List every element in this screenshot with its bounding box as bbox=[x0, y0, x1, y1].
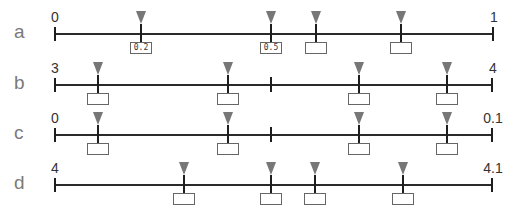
down-arrow-icon bbox=[311, 11, 321, 24]
answer-box[interactable] bbox=[436, 93, 458, 105]
row-label: b bbox=[14, 72, 25, 94]
answer-box[interactable] bbox=[348, 143, 370, 155]
marker-tick bbox=[183, 175, 185, 193]
marker-tick bbox=[446, 75, 448, 93]
midpoint-tick bbox=[270, 127, 272, 142]
down-arrow-icon bbox=[442, 112, 452, 125]
answer-box[interactable]: 0.5 bbox=[260, 42, 282, 54]
answer-box[interactable] bbox=[217, 143, 239, 155]
answer-box[interactable] bbox=[87, 143, 109, 155]
down-arrow-icon bbox=[354, 62, 364, 75]
number-line-axis bbox=[55, 184, 492, 186]
row-label: d bbox=[14, 172, 25, 194]
answer-box[interactable] bbox=[390, 42, 412, 54]
down-arrow-icon bbox=[396, 11, 406, 24]
marker-tick bbox=[227, 75, 229, 93]
number-line-axis bbox=[55, 84, 492, 86]
marker-tick bbox=[402, 175, 404, 193]
answer-box[interactable] bbox=[260, 193, 282, 205]
end-tick bbox=[492, 27, 494, 41]
down-arrow-icon bbox=[442, 62, 452, 75]
answer-box[interactable] bbox=[87, 93, 109, 105]
down-arrow-icon bbox=[266, 11, 276, 24]
marker-tick bbox=[270, 175, 272, 193]
marker-tick bbox=[400, 24, 402, 42]
end-value-label: 4.1 bbox=[483, 160, 502, 176]
marker-tick bbox=[358, 125, 360, 143]
marker-tick bbox=[358, 75, 360, 93]
answer-box[interactable] bbox=[348, 93, 370, 105]
start-tick bbox=[54, 128, 56, 142]
down-arrow-icon bbox=[223, 112, 233, 125]
marker-tick bbox=[97, 125, 99, 143]
end-tick bbox=[491, 178, 493, 192]
marker-tick bbox=[315, 24, 317, 42]
answer-box[interactable] bbox=[304, 193, 326, 205]
down-arrow-icon bbox=[266, 162, 276, 175]
down-arrow-icon bbox=[179, 162, 189, 175]
down-arrow-icon bbox=[223, 62, 233, 75]
answer-box[interactable] bbox=[436, 143, 458, 155]
start-value-label: 4 bbox=[51, 160, 59, 176]
down-arrow-icon bbox=[398, 162, 408, 175]
row-label: a bbox=[14, 21, 25, 43]
marker-tick bbox=[227, 125, 229, 143]
marker-tick bbox=[140, 24, 142, 42]
marker-tick bbox=[446, 125, 448, 143]
number-line-axis bbox=[55, 33, 493, 35]
answer-box[interactable] bbox=[217, 93, 239, 105]
start-value-label: 0 bbox=[51, 110, 59, 126]
start-value-label: 0 bbox=[51, 9, 59, 25]
down-arrow-icon bbox=[136, 11, 146, 24]
start-tick bbox=[54, 178, 56, 192]
start-tick bbox=[54, 78, 56, 92]
marker-tick bbox=[97, 75, 99, 93]
down-arrow-icon bbox=[354, 112, 364, 125]
answer-box[interactable] bbox=[392, 193, 414, 205]
down-arrow-icon bbox=[93, 62, 103, 75]
start-value-label: 3 bbox=[51, 60, 59, 76]
down-arrow-icon bbox=[310, 162, 320, 175]
end-value-label: 0.1 bbox=[483, 110, 502, 126]
marker-tick bbox=[314, 175, 316, 193]
midpoint-tick bbox=[270, 77, 272, 92]
row-label: c bbox=[14, 122, 24, 144]
end-tick bbox=[491, 128, 493, 142]
marker-tick bbox=[270, 24, 272, 42]
answer-box[interactable] bbox=[305, 42, 327, 54]
end-value-label: 4 bbox=[489, 60, 497, 76]
answer-box[interactable] bbox=[173, 193, 195, 205]
end-tick bbox=[491, 78, 493, 92]
number-line-axis bbox=[55, 134, 492, 136]
answer-box[interactable]: 0.2 bbox=[130, 42, 152, 54]
down-arrow-icon bbox=[93, 112, 103, 125]
end-value-label: 1 bbox=[490, 9, 498, 25]
start-tick bbox=[54, 27, 56, 41]
